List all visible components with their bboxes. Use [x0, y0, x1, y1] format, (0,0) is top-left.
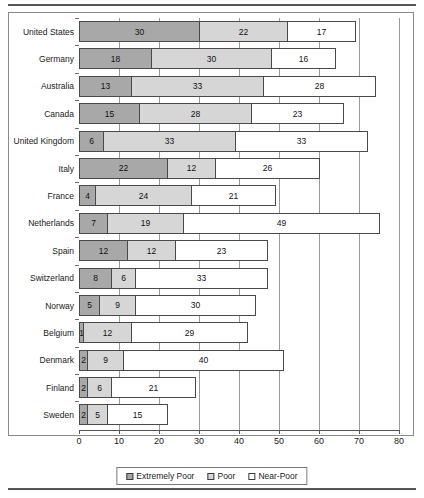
- bar-row: Australia133328: [79, 73, 399, 100]
- y-axis-tick: [75, 237, 79, 238]
- bar-segment[interactable]: 12: [83, 322, 132, 343]
- stacked-bar[interactable]: 152823: [79, 103, 344, 124]
- bar-segment[interactable]: 15: [79, 103, 140, 124]
- x-tick-mark: [359, 430, 360, 434]
- chart-legend: Extremely PoorPoorNear-Poor: [116, 467, 307, 485]
- stacked-bar[interactable]: 183016: [79, 48, 336, 69]
- figure: United States302217Germany183016Australi…: [8, 12, 416, 482]
- bar-segment[interactable]: 26: [215, 158, 320, 179]
- bar-segment[interactable]: 6: [87, 377, 112, 398]
- stacked-bar[interactable]: 11229: [79, 322, 248, 343]
- x-tick-mark: [119, 430, 120, 434]
- legend-item[interactable]: Extremely Poor: [126, 471, 194, 481]
- bar-segment[interactable]: 6: [79, 131, 104, 152]
- gridline-80: [399, 18, 400, 430]
- stacked-bar[interactable]: 133328: [79, 76, 376, 97]
- legend-label: Poor: [217, 471, 235, 481]
- category-label: Australia: [41, 81, 74, 91]
- stacked-bar[interactable]: 2621: [79, 377, 196, 398]
- stacked-bar[interactable]: 2940: [79, 350, 284, 371]
- bar-segment[interactable]: 12: [79, 240, 128, 261]
- bar-segment[interactable]: 16: [271, 48, 336, 69]
- bar-segment[interactable]: 29: [131, 322, 248, 343]
- bar-segment[interactable]: 12: [127, 240, 176, 261]
- y-axis-tick: [75, 292, 79, 293]
- bar-segment[interactable]: 23: [251, 103, 344, 124]
- stacked-bar[interactable]: 42421: [79, 185, 276, 206]
- plot-area: United States302217Germany183016Australi…: [79, 18, 399, 430]
- bar-row: Germany183016: [79, 45, 399, 72]
- bar-row: Spain121223: [79, 237, 399, 264]
- category-label: France: [48, 191, 74, 201]
- category-label: United States: [23, 27, 74, 37]
- legend-swatch-icon: [207, 473, 214, 480]
- bar-segment[interactable]: 30: [79, 21, 200, 42]
- x-tick-mark: [399, 430, 400, 434]
- y-axis-tick: [75, 73, 79, 74]
- category-label: Canada: [44, 109, 74, 119]
- bar-segment[interactable]: 7: [79, 213, 108, 234]
- stacked-bar[interactable]: 63333: [79, 131, 368, 152]
- bar-segment[interactable]: 15: [107, 404, 168, 425]
- stacked-bar[interactable]: 2515: [79, 404, 168, 425]
- bar-segment[interactable]: 22: [199, 21, 288, 42]
- category-label: Switzerland: [30, 273, 74, 283]
- y-axis-tick: [75, 347, 79, 348]
- x-tick-mark: [199, 430, 200, 434]
- bar-row: Canada152823: [79, 100, 399, 127]
- stacked-bar[interactable]: 71949: [79, 213, 380, 234]
- x-tick-mark: [319, 430, 320, 434]
- bar-segment[interactable]: 24: [95, 185, 192, 206]
- bar-segment[interactable]: 19: [107, 213, 184, 234]
- bar-row: Denmark2940: [79, 347, 399, 374]
- bar-segment[interactable]: 18: [79, 48, 152, 69]
- y-axis-tick: [75, 155, 79, 156]
- x-tick-label: 20: [154, 436, 164, 446]
- stacked-bar[interactable]: 8633: [79, 268, 268, 289]
- bar-segment[interactable]: 21: [111, 377, 196, 398]
- stacked-bar[interactable]: 221226: [79, 158, 320, 179]
- bar-segment[interactable]: 13: [79, 76, 132, 97]
- x-tick-mark: [159, 430, 160, 434]
- bar-segment[interactable]: 9: [99, 295, 136, 316]
- bar-segment[interactable]: 9: [87, 350, 124, 371]
- category-label: Netherlands: [28, 218, 74, 228]
- bar-segment[interactable]: 5: [87, 404, 108, 425]
- legend-item[interactable]: Poor: [207, 471, 235, 481]
- bar-row: Sweden2515: [79, 401, 399, 428]
- bar-segment[interactable]: 33: [131, 76, 264, 97]
- stacked-bar[interactable]: 5930: [79, 295, 256, 316]
- x-tick-label: 50: [274, 436, 284, 446]
- bar-segment[interactable]: 17: [287, 21, 356, 42]
- bar-segment[interactable]: 5: [79, 295, 100, 316]
- x-axis-ticks: 01020304050607080: [79, 430, 399, 448]
- stacked-bar[interactable]: 302217: [79, 21, 356, 42]
- bar-segment[interactable]: 33: [103, 131, 236, 152]
- bar-segment[interactable]: 33: [135, 268, 268, 289]
- bar-segment[interactable]: 6: [111, 268, 136, 289]
- bar-segment[interactable]: 33: [235, 131, 368, 152]
- bar-segment[interactable]: 40: [123, 350, 284, 371]
- bar-segment[interactable]: 49: [183, 213, 380, 234]
- x-tick-mark: [79, 430, 80, 434]
- x-tick-mark: [279, 430, 280, 434]
- bar-segment[interactable]: 12: [167, 158, 216, 179]
- bar-segment[interactable]: 28: [263, 76, 376, 97]
- bar-segment[interactable]: 30: [135, 295, 256, 316]
- bar-row: Italy221226: [79, 155, 399, 182]
- bottom-rule: [8, 488, 416, 490]
- x-tick-label: 0: [76, 436, 81, 446]
- bar-segment[interactable]: 23: [175, 240, 268, 261]
- bar-segment[interactable]: 21: [191, 185, 276, 206]
- legend-item[interactable]: Near-Poor: [248, 471, 297, 481]
- category-label: Sweden: [43, 410, 74, 420]
- x-tick-label: 10: [114, 436, 124, 446]
- legend-swatch-icon: [126, 473, 133, 480]
- y-axis-tick: [75, 210, 79, 211]
- stacked-bar[interactable]: 121223: [79, 240, 268, 261]
- bar-segment[interactable]: 22: [79, 158, 168, 179]
- bar-segment[interactable]: 30: [151, 48, 272, 69]
- bar-segment[interactable]: 8: [79, 268, 112, 289]
- bar-segment[interactable]: 28: [139, 103, 252, 124]
- bar-segment[interactable]: 4: [79, 185, 96, 206]
